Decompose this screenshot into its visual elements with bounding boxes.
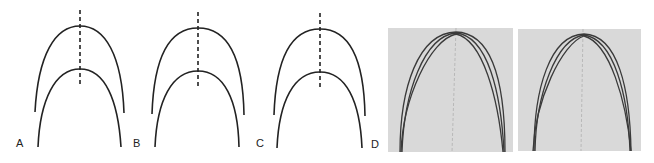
archwire-photo-2 xyxy=(518,29,641,151)
panel-c-drawing xyxy=(274,13,365,148)
archwire-photo-1 xyxy=(388,28,513,152)
archwire-overlay-1 xyxy=(388,28,513,152)
panel-label-d: D xyxy=(371,139,379,150)
panel-a-drawing xyxy=(35,10,124,147)
panel-label-b: B xyxy=(133,138,140,149)
inner-arch xyxy=(155,71,239,147)
panel-b-drawing: @ xyxy=(152,12,244,147)
panel-label-c: C xyxy=(256,138,264,149)
archwire-overlay-2 xyxy=(518,29,641,151)
panel-label-a: A xyxy=(16,138,23,149)
